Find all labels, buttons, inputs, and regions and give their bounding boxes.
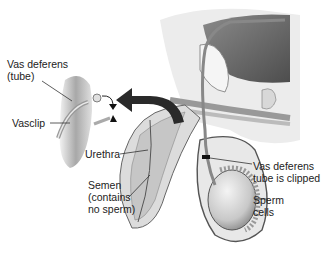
label-vasclip: Vasclip [12,117,45,129]
label-vas-clipped: Vas deferens tube is clipped [253,160,320,184]
clip-marker [202,155,210,159]
label-urethra: Urethra [85,148,120,160]
label-vas-deferens-tube: Vas deferens (tube) [7,58,68,82]
label-sperm-cells: Sperm cells [253,194,284,218]
label-semen: Semen (contains no sperm) [88,179,135,215]
testis [208,170,256,230]
